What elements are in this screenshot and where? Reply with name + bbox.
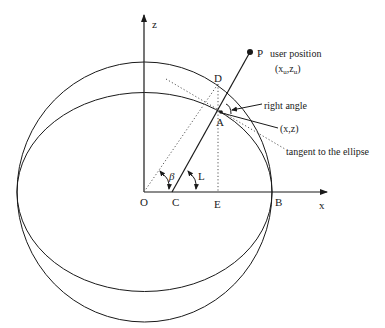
l-angle-arc [190, 174, 196, 189]
xz-pointer [222, 113, 278, 128]
point-p-marker [247, 49, 253, 55]
label-c: C [172, 196, 179, 208]
label-e: E [214, 198, 221, 210]
right-angle-arc [226, 104, 231, 114]
normal-line-c-to-p [172, 52, 250, 192]
label-b: B [275, 196, 282, 208]
label-d: D [214, 72, 222, 84]
diagram-canvas: z x O C E B D A P β L user position (xu,… [0, 0, 385, 328]
label-l: L [198, 170, 205, 182]
label-a: A [216, 116, 224, 128]
label-o: O [140, 196, 148, 208]
label-beta: β [168, 170, 175, 182]
beta-angle-arc-start [160, 171, 164, 176]
tangent-label: tangent to the ellipse [286, 146, 370, 157]
right-angle-label: right angle [264, 100, 308, 111]
user-position-label: user position [270, 48, 321, 59]
x-axis-label: x [319, 199, 325, 211]
label-p: P [257, 47, 263, 59]
right-angle-pointer [232, 104, 262, 110]
z-axis-label: z [152, 18, 157, 30]
user-coords-label: (xu,zu) [275, 63, 301, 76]
point-xz-label: (x,z) [280, 123, 299, 135]
l-angle-arc-start [188, 171, 192, 176]
